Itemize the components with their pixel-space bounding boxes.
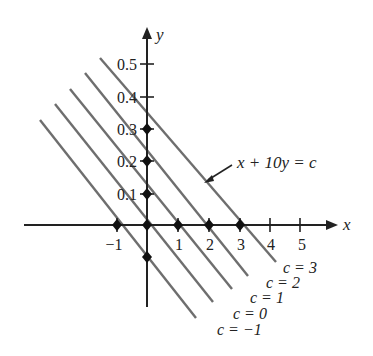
point (142, 123, 152, 135)
x-tick-label: 5 (298, 236, 306, 253)
x-tick-label: −1 (105, 236, 122, 253)
y-tick-label: 0.1 (117, 186, 137, 203)
y-tick-label: 0.2 (117, 153, 137, 170)
x-tick-label: 4 (267, 236, 275, 253)
point (142, 219, 152, 231)
point (142, 155, 152, 167)
x-axis-arrow-icon (326, 220, 338, 230)
x-axis-label: x (342, 215, 351, 234)
x-tick-label: 1 (175, 236, 183, 253)
y-tick-label: 0.5 (117, 56, 137, 73)
y-tick-label: 0.3 (117, 121, 137, 138)
level-label-cm1: c = −1 (217, 321, 262, 338)
level-label-c0: c = 0 (233, 305, 267, 322)
y-axis-arrow-icon (142, 27, 152, 39)
level-label-c1: c = 1 (250, 289, 284, 306)
diagram-canvas: y x 0.5 0.4 0.3 0.2 0.1 −1 1 2 3 4 5 x +… (0, 0, 373, 356)
point (204, 219, 214, 231)
point (173, 219, 183, 231)
y-tick-label: 0.4 (117, 89, 137, 106)
point (235, 219, 245, 231)
x-tick-label: 2 (206, 236, 214, 253)
x-tick-label: 3 (237, 236, 245, 253)
equation-label: x + 10y = c (236, 153, 317, 172)
level-lines (40, 58, 276, 318)
y-axis-label: y (154, 25, 164, 44)
